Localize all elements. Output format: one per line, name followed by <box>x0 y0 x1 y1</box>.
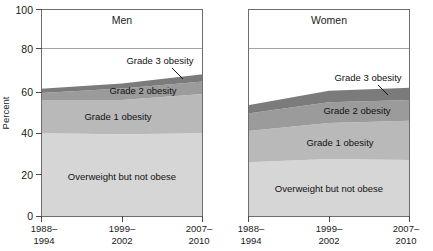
men-y-axis: 100 80 60 40 20 0 <box>15 4 41 223</box>
y-tick-label-60: 60 <box>21 86 33 98</box>
women-label-grade2: Grade 2 obesity <box>323 105 390 116</box>
men-x-tick-1-line2: 1994 <box>33 235 54 246</box>
men-x-tick-2-line1: 1999– <box>109 223 136 234</box>
women-x-tick-3-line1: 2007– <box>393 223 420 234</box>
women-x-tick-3-line2: 2010 <box>395 235 416 246</box>
men-x-axis: 1988– 1994 1999– 2002 2007– 2010 <box>31 216 213 246</box>
men-label-grade2: Grade 2 obesity <box>109 85 176 96</box>
women-panel-title: Women <box>311 14 347 26</box>
men-x-tick-1-line1: 1988– <box>31 223 58 234</box>
women-label-grade3: Grade 3 obesity <box>334 72 401 83</box>
women-x-tick-2-line2: 2002 <box>318 235 339 246</box>
women-x-tick-2-line1: 1999– <box>316 223 343 234</box>
men-x-tick-3-line1: 2007– <box>186 223 213 234</box>
y-tick-label-0: 0 <box>27 210 33 222</box>
men-label-overweight: Overweight but not obese <box>68 171 176 182</box>
women-x-axis: 1988– 1994 1999– 2002 2007– 2010 <box>238 216 420 246</box>
figure-container: 100 80 60 40 20 0 Percent 1988– 1994 199… <box>0 0 433 251</box>
y-axis-title: Percent <box>0 96 11 129</box>
women-label-overweight: Overweight but not obese <box>275 183 383 194</box>
men-x-tick-2-line2: 2002 <box>111 235 132 246</box>
women-label-grade1: Grade 1 obesity <box>306 137 373 148</box>
y-tick-label-80: 80 <box>21 43 33 55</box>
men-x-tick-3-line2: 2010 <box>188 235 209 246</box>
women-x-tick-1-line2: 1994 <box>240 235 261 246</box>
men-label-grade1: Grade 1 obesity <box>84 111 151 122</box>
panel-women: 1988– 1994 1999– 2002 2007– 2010 Women G… <box>238 10 420 247</box>
y-tick-label-40: 40 <box>21 127 33 139</box>
men-panel-title: Men <box>112 14 133 26</box>
panel-men: 100 80 60 40 20 0 Percent 1988– 1994 199… <box>0 4 213 247</box>
men-label-grade3: Grade 3 obesity <box>126 55 193 66</box>
stacked-area-chart: 100 80 60 40 20 0 Percent 1988– 1994 199… <box>0 0 433 251</box>
y-tick-label-20: 20 <box>21 169 33 181</box>
women-x-tick-1-line1: 1988– <box>238 223 265 234</box>
y-tick-label-100: 100 <box>15 4 33 16</box>
